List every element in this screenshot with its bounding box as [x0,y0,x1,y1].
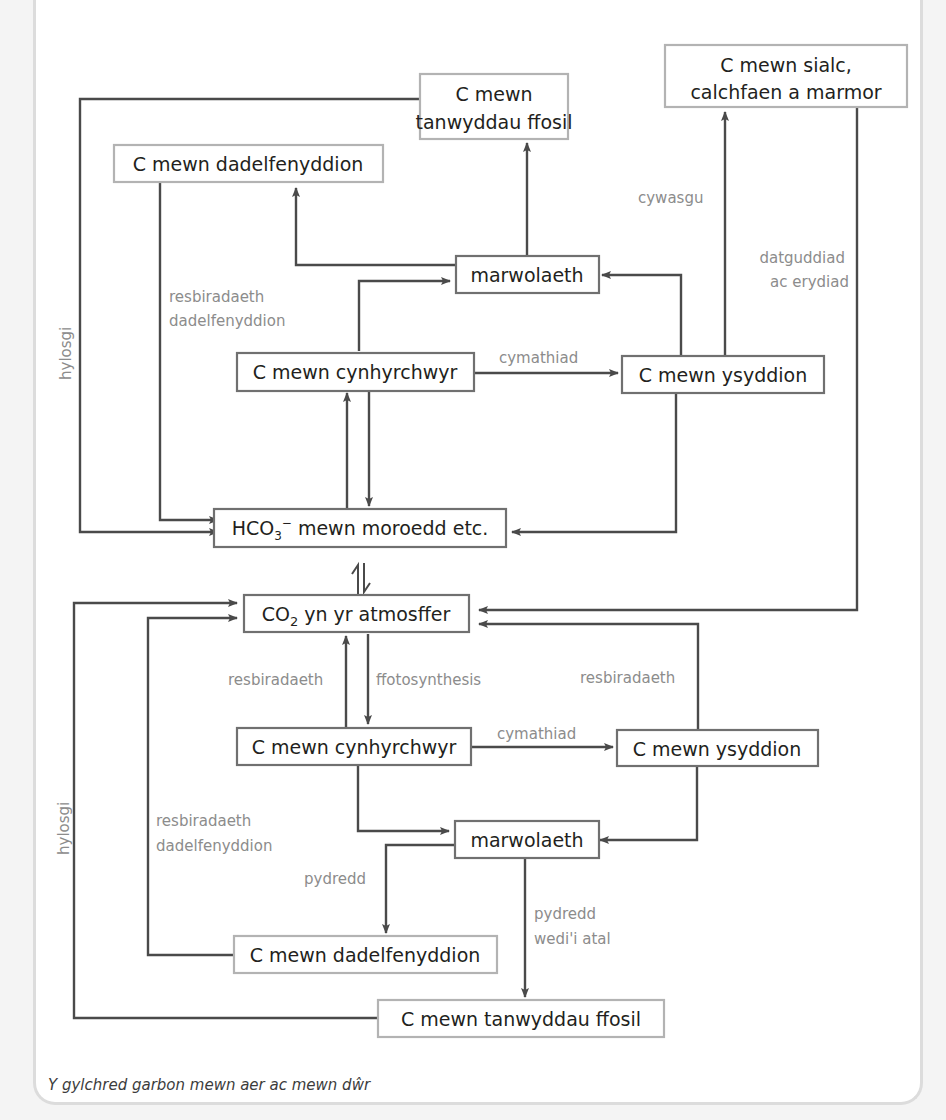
figure-caption: Y gylchred garbon mewn aer ac mewn dŵr [48,1076,371,1094]
label-decomposer-respiration-bottom: dadelfenyddion [156,837,272,855]
equilibrium-icon [352,563,370,594]
carbon-cycle-diagram: C mewn tanwyddau ffosil C mewn sialc, ca… [0,0,946,1120]
label-erosion: ac erydiad [770,273,849,291]
arrow-death-to-decomposers-top [296,188,455,265]
node-decomposers-bottom: C mewn dadelfenyddion [234,936,497,973]
node-consumers-top: C mewn ysyddion [622,356,824,393]
node-label: C mewn cynhyrchwyr [253,361,458,383]
arrow-consumers-to-death-bottom [600,766,697,840]
arrow-producers-to-death-top [359,281,450,351]
label-decay: pydredd [304,870,366,888]
label-compression: cywasgu [638,189,703,207]
label-combustion-top: hylosgi [57,327,75,380]
node-label: C mewn cynhyrchwyr [252,736,457,758]
node-label: calchfaen a marmor [690,81,881,103]
node-label: C mewn ysyddion [639,364,808,386]
label-assimilation-bottom: cymathiad [497,725,576,743]
label-photosynthesis: ffotosynthesis [376,671,481,689]
node-label: C mewn sialc, [720,54,852,76]
arrow-consumers-to-hco3 [512,393,676,532]
node-decomposers-top: C mewn dadelfenyddion [114,145,383,182]
node-label: marwolaeth [470,264,583,286]
node-label: C mewn dadelfenyddion [133,153,364,175]
node-bicarbonate-oceans: HCO3− mewn moroedd etc. [214,509,506,547]
node-label: C mewn ysyddion [633,738,802,760]
node-producers-bottom: C mewn cynhyrchwyr [237,728,471,765]
node-label: C mewn [455,83,532,105]
arrow-decay [386,845,455,933]
label-respiration-consumers: resbiradaeth [580,669,675,687]
node-label: C mewn dadelfenyddion [250,944,481,966]
node-label: HCO3− mewn moroedd etc. [232,516,489,543]
label-decomposer-respiration-top: dadelfenyddion [169,312,285,330]
arrow-decomposer-respiration-bottom [148,618,237,955]
node-label: marwolaeth [470,829,583,851]
arrow-decomposer-respiration-top [160,182,218,520]
arrow-producers-to-death-bottom [358,766,449,831]
node-death-bottom: marwolaeth [455,821,599,858]
node-fossil-fuels-top: C mewn tanwyddau ffosil [416,74,573,139]
node-consumers-bottom: C mewn ysyddion [617,730,818,766]
label-combustion-bottom: hylosgi [55,802,73,855]
label-exposure: datguddiad [759,249,845,267]
node-fossil-fuels-bottom: C mewn tanwyddau ffosil [378,1000,664,1037]
node-atmosphere-co2: CO2 yn yr atmosffer [244,595,469,632]
label-decomposer-respiration-bottom: resbiradaeth [156,812,251,830]
label-assimilation-top: cymathiad [499,349,578,367]
label-respiration-producers: resbiradaeth [228,671,323,689]
node-chalk-limestone-marble: C mewn sialc, calchfaen a marmor [665,45,907,107]
label-decomposer-respiration-top: resbiradaeth [169,288,264,306]
label-decay-stopped: wedi'i atal [534,930,611,948]
node-death-top: marwolaeth [456,256,599,293]
node-label: tanwyddau ffosil [416,111,573,133]
node-producers-top: C mewn cynhyrchwyr [237,353,474,391]
arrow-consumers-to-death-top [602,275,681,355]
node-label: C mewn tanwyddau ffosil [401,1008,641,1030]
label-decay-stopped: pydredd [534,905,596,923]
